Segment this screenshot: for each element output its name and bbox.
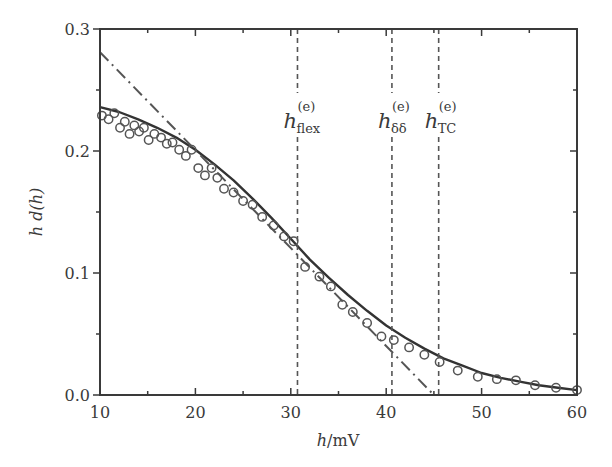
x-axis-label-unit: /mV (327, 431, 360, 450)
data-markers (98, 109, 581, 394)
x-axis-label-var: h (317, 431, 327, 450)
axes (100, 29, 577, 395)
data-point (213, 174, 221, 182)
plot-frame (100, 29, 577, 395)
data-point (474, 373, 482, 381)
fit-curve (100, 107, 577, 390)
chart: h(e)flexh(e)δδh(e)TC 1020304050600.00.10… (0, 0, 612, 467)
x-tick-label: 60 (567, 403, 587, 422)
label-sup: (e) (297, 99, 315, 114)
data-point (163, 139, 171, 147)
reference-label-flex: h(e)flex (278, 93, 320, 136)
x-tick-label: 20 (185, 403, 205, 422)
data-point (435, 358, 443, 366)
y-tick-label: 0.1 (65, 264, 90, 283)
data-point (454, 366, 462, 374)
reference-lines: h(e)flexh(e)δδh(e)TC (278, 29, 457, 395)
y-tick-label: 0.3 (65, 20, 90, 39)
label-sup: (e) (392, 99, 410, 114)
label-main: h (425, 109, 439, 133)
plot-area (100, 52, 577, 395)
label-sub: TC (438, 121, 457, 136)
y-tick-label: 0.0 (65, 386, 90, 405)
reference-label-TC: h(e)TC (420, 93, 458, 136)
x-tick-label: 50 (471, 403, 491, 422)
x-tick-label: 40 (376, 403, 396, 422)
label-sub: flex (296, 121, 320, 136)
label-main: h (283, 109, 297, 133)
x-tick-label: 30 (281, 403, 301, 422)
data-point (168, 138, 176, 146)
data-point (220, 185, 228, 193)
data-point (269, 221, 277, 229)
data-point (194, 164, 202, 172)
data-point (420, 351, 428, 359)
y-axis-label: h d(h) (27, 188, 46, 236)
data-point (390, 336, 398, 344)
data-point (201, 171, 209, 179)
data-point (377, 332, 385, 340)
data-point (239, 197, 247, 205)
data-point (405, 343, 413, 351)
x-axis-label: h/mV (317, 431, 360, 450)
data-point (125, 130, 133, 138)
data-point (207, 164, 215, 172)
y-tick-label: 0.2 (65, 142, 90, 161)
reference-label-δδ: h(e)δδ (373, 93, 411, 136)
data-point (121, 118, 129, 126)
x-tick-label: 10 (90, 403, 110, 422)
label-main: h (378, 109, 392, 133)
ticks: 1020304050600.00.10.20.3 (65, 20, 588, 422)
label-sup: (e) (439, 99, 457, 114)
label-sub: δδ (391, 121, 407, 136)
